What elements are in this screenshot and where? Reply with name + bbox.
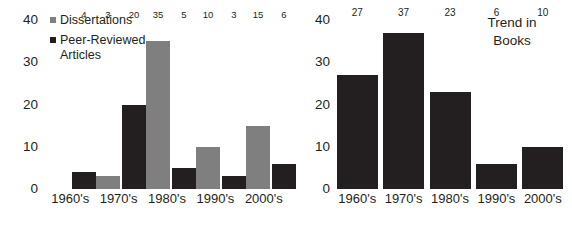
bar-wrap-dissertations-2000s: 15 bbox=[246, 20, 270, 189]
bar-group-books-1960s: 27 bbox=[334, 20, 380, 189]
x-axis-left: 1960's 1970's 1980's 1990's 2000's bbox=[46, 192, 288, 206]
chart-panel-left: Dissertations Peer-Reviewed Articles 0 1… bbox=[0, 0, 292, 228]
x-axis-line-left bbox=[46, 188, 288, 189]
x-tick-left-1970s: 1970's bbox=[94, 192, 142, 206]
bar-wrap-dissertations-1970s: 3 bbox=[96, 20, 120, 189]
bar-wrap-articles-1980s: 5 bbox=[172, 20, 196, 189]
bar-groups-right: 27 37 23 bbox=[334, 20, 566, 189]
y-tick-right-20: 20 bbox=[315, 98, 330, 112]
bar-value-articles-2000s: 6 bbox=[281, 10, 286, 20]
bar-dissertations-1980s[interactable] bbox=[146, 41, 170, 189]
bar-wrap-dissertations-1980s: 35 bbox=[146, 20, 170, 189]
x-tick-left-1980s: 1980's bbox=[143, 192, 191, 206]
x-tick-right-1960s: 1960's bbox=[334, 192, 380, 206]
bar-group-books-1990s: 6 bbox=[473, 20, 519, 189]
bar-group-books-2000s: 10 bbox=[520, 20, 566, 189]
x-tick-right-1980s: 1980's bbox=[427, 192, 473, 206]
y-tick-right-30: 30 bbox=[315, 56, 330, 70]
bar-group-2000s: 15 6 bbox=[246, 20, 296, 189]
bar-value-articles-1960s: 4 bbox=[81, 10, 86, 20]
bar-value-books-1980s: 23 bbox=[444, 8, 455, 18]
bar-books-1960s[interactable] bbox=[337, 75, 378, 189]
x-tick-right-2000s: 2000's bbox=[520, 192, 566, 206]
bar-dissertations-2000s[interactable] bbox=[246, 126, 270, 189]
y-axis-left: 0 10 20 30 40 bbox=[0, 20, 42, 189]
bar-wrap-books-2000s: 10 bbox=[522, 20, 563, 189]
bar-wrap-dissertations-1960s bbox=[46, 20, 70, 189]
y-tick-20: 20 bbox=[23, 98, 38, 112]
y-tick-0: 0 bbox=[30, 182, 38, 196]
x-tick-left-1990s: 1990's bbox=[191, 192, 239, 206]
x-tick-left-1960s: 1960's bbox=[46, 192, 94, 206]
plot-area-right: 27 37 23 bbox=[334, 20, 566, 189]
bar-wrap-dissertations-1990s: 10 bbox=[196, 20, 220, 189]
bar-articles-1970s[interactable] bbox=[122, 105, 146, 190]
bar-value-articles-1990s: 3 bbox=[231, 10, 236, 20]
bar-group-1980s: 35 5 bbox=[146, 20, 196, 189]
bar-group-1970s: 3 20 bbox=[96, 20, 146, 189]
bar-group-1960s: 4 bbox=[46, 20, 96, 189]
x-tick-left-2000s: 2000's bbox=[240, 192, 288, 206]
chart-panel-right: Trend in Books 0 10 20 30 40 27 37 bbox=[292, 0, 572, 228]
figure-two-bar-charts: Dissertations Peer-Reviewed Articles 0 1… bbox=[0, 0, 572, 228]
y-tick-30: 30 bbox=[23, 56, 38, 70]
bar-value-dissertations-2000s: 15 bbox=[253, 10, 264, 20]
bar-books-1990s[interactable] bbox=[476, 164, 517, 189]
y-axis-right: 0 10 20 30 40 bbox=[292, 20, 334, 189]
bar-value-books-1960s: 27 bbox=[352, 8, 363, 18]
bar-wrap-articles-1960s: 4 bbox=[72, 20, 96, 189]
bar-value-dissertations-1990s: 10 bbox=[203, 10, 214, 20]
bar-value-articles-1980s: 5 bbox=[181, 10, 186, 20]
bar-wrap-articles-1970s: 20 bbox=[122, 20, 146, 189]
bar-books-2000s[interactable] bbox=[522, 147, 563, 189]
bar-dissertations-1990s[interactable] bbox=[196, 147, 220, 189]
bar-value-articles-1970s: 20 bbox=[129, 10, 140, 20]
plot-area-left: 4 3 20 35 bbox=[46, 20, 288, 189]
y-tick-40: 40 bbox=[23, 13, 38, 27]
bar-group-1990s: 10 3 bbox=[196, 20, 246, 189]
bar-value-books-1990s: 6 bbox=[494, 8, 500, 18]
bar-wrap-books-1970s: 37 bbox=[383, 20, 424, 189]
y-tick-right-0: 0 bbox=[322, 182, 330, 196]
y-tick-10: 10 bbox=[23, 140, 38, 154]
x-tick-right-1970s: 1970's bbox=[380, 192, 426, 206]
x-tick-right-1990s: 1990's bbox=[473, 192, 519, 206]
bar-articles-1980s[interactable] bbox=[172, 168, 196, 189]
bar-group-books-1980s: 23 bbox=[427, 20, 473, 189]
bar-value-books-2000s: 10 bbox=[537, 8, 548, 18]
x-axis-right: 1960's 1970's 1980's 1990's 2000's bbox=[334, 192, 566, 206]
bar-wrap-articles-1990s: 3 bbox=[222, 20, 246, 189]
bar-articles-1960s[interactable] bbox=[72, 172, 96, 189]
bar-wrap-books-1980s: 23 bbox=[430, 20, 471, 189]
bar-value-books-1970s: 37 bbox=[398, 8, 409, 18]
x-axis-line-right bbox=[334, 188, 566, 189]
bar-groups-left: 4 3 20 35 bbox=[46, 20, 288, 189]
bar-value-dissertations-1980s: 35 bbox=[153, 10, 164, 20]
y-tick-right-10: 10 bbox=[315, 140, 330, 154]
bar-value-dissertations-1970s: 3 bbox=[105, 10, 110, 20]
bar-group-books-1970s: 37 bbox=[380, 20, 426, 189]
bar-books-1980s[interactable] bbox=[430, 92, 471, 189]
bar-books-1970s[interactable] bbox=[383, 33, 424, 189]
bar-wrap-books-1960s: 27 bbox=[337, 20, 378, 189]
bar-wrap-books-1990s: 6 bbox=[476, 20, 517, 189]
y-tick-right-40: 40 bbox=[315, 13, 330, 27]
